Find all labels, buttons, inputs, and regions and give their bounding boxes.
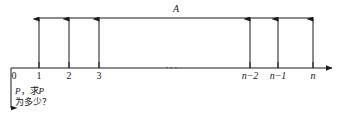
bracket-label-A: A [173, 3, 179, 14]
tick-label-3: 3 [97, 70, 102, 81]
diagram-canvas: A 0 1 2 3 n−2 n−1 n ··· P，求P 为多少？ [0, 0, 344, 123]
tick-label-n-minus-1: n−1 [270, 70, 287, 81]
tick-label-n-minus-2: n−2 [242, 70, 259, 81]
tick-label-n: n [311, 70, 316, 81]
tick-label-2: 2 [67, 70, 72, 81]
annotation-line-1: P，求P [15, 86, 51, 97]
annotation-verb: 求 [30, 86, 39, 96]
ellipsis-label: ··· [166, 62, 179, 73]
annotation-text: P，求P 为多少？ [15, 86, 51, 108]
annotation-line-2: 为多少？ [15, 97, 51, 108]
tick-label-0: 0 [12, 70, 17, 81]
annotation-comma: ， [21, 86, 30, 96]
annotation-p-second: P [39, 86, 45, 96]
tick-label-1: 1 [37, 70, 42, 81]
